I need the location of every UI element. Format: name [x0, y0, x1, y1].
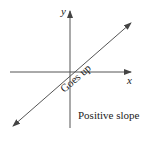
- line-label: Goes up: [58, 61, 94, 94]
- y-axis-label: y: [60, 5, 66, 17]
- x-axis-label: x: [126, 74, 132, 86]
- diagram-caption: Positive slope: [78, 109, 139, 121]
